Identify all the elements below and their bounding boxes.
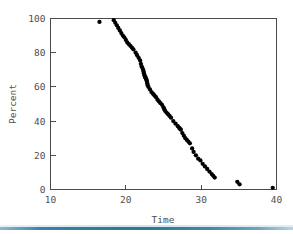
x-axis-tick-labels: 10203040 <box>45 194 283 205</box>
data-point <box>188 141 192 145</box>
scatter-plot-svg: 020406080100 10203040 Time Percent <box>0 0 293 234</box>
x-tick-label-30: 30 <box>195 194 207 205</box>
data-point-group <box>97 18 275 190</box>
data-point <box>271 186 275 190</box>
x-tick-label-20: 20 <box>120 194 132 205</box>
x-axis-ticks <box>51 185 277 190</box>
data-point <box>213 175 217 179</box>
chart-figure: 020406080100 10203040 Time Percent <box>0 0 293 234</box>
data-point <box>97 20 101 24</box>
x-tick-label-40: 40 <box>271 194 283 205</box>
y-axis-tick-labels: 020406080100 <box>28 13 45 195</box>
x-tick-label-10: 10 <box>45 194 57 205</box>
data-point <box>237 182 241 186</box>
bottom-accent-rule <box>0 227 293 230</box>
y-tick-label-80: 80 <box>34 47 46 58</box>
y-tick-label-40: 40 <box>34 116 46 127</box>
y-axis-ticks <box>51 19 56 190</box>
x-axis-title: Time <box>152 214 175 225</box>
y-axis-title: Percent <box>7 84 18 124</box>
y-tick-label-20: 20 <box>34 150 46 161</box>
y-tick-label-100: 100 <box>28 13 45 24</box>
y-tick-label-60: 60 <box>34 81 46 92</box>
